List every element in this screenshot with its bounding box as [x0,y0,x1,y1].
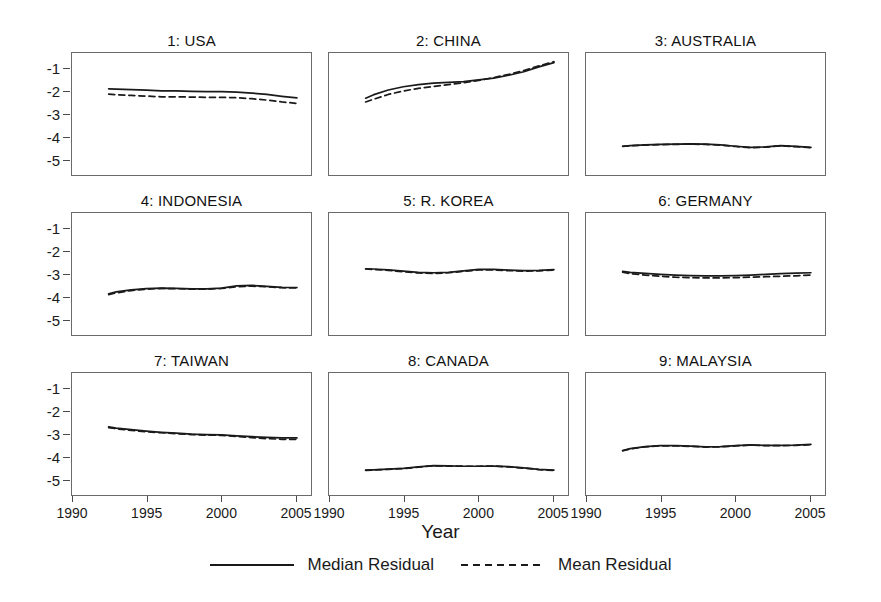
panel-r-korea: 5: R. KOREA [328,188,569,336]
panel-plot-area [328,213,569,336]
x-tick-label: 1995 [388,505,419,521]
x-tick-mark [661,496,662,502]
panel-plot-area [328,373,569,496]
panel-plot-area [328,53,569,176]
x-tick-label: 1995 [645,505,676,521]
y-tick-label: -5 [47,472,60,489]
y-tick-mark [63,434,70,435]
x-tick-mark [296,496,297,502]
panel-title-strip: 4: INDONESIA [71,188,312,213]
panel-plot-area [585,53,826,176]
y-tick-label: -5 [47,152,60,169]
panel-title-strip: 7: TAIWAN [71,348,312,373]
x-tick-mark [221,496,222,502]
median-residual-line [109,427,297,438]
legend-entry-median: Median Residual [209,555,434,575]
panel-usa: 1: USA [71,28,312,176]
x-tick-mark [404,496,405,502]
y-tick-label: -1 [47,219,60,236]
panel-taiwan: 7: TAIWAN [71,348,312,496]
x-tick-label: 2000 [206,505,237,521]
solid-line-icon [209,560,295,570]
y-tick-mark [63,228,70,229]
y-tick-mark [63,480,70,481]
panel-title-label: 8: CANADA [408,352,489,369]
x-axis-ticks-col2 [328,496,569,503]
x-tick-mark [72,496,73,502]
y-tick-mark [63,274,70,275]
legend-entry-mean: Mean Residual [460,555,671,575]
y-tick-mark [63,411,70,412]
panel-china: 2: CHINA [328,28,569,176]
panel-title-label: 5: R. KOREA [403,192,494,209]
panel-germany: 6: GERMANY [585,188,826,336]
x-tick-mark [329,496,330,502]
legend-label-mean: Mean Residual [558,555,671,575]
y-tick-label: -3 [47,266,60,283]
x-tick-mark [147,496,148,502]
y-tick-mark [63,68,70,69]
mean-residual-line [109,94,297,103]
x-tick-label: 1990 [570,505,601,521]
median-residual-line [623,271,811,275]
y-tick-label: -3 [47,106,60,123]
y-tick-mark [63,91,70,92]
panel-title-strip: 8: CANADA [328,348,569,373]
panel-canada: 8: CANADA [328,348,569,496]
y-axis-labels-row2: -1-2-3-4-5 [18,188,60,336]
panel-title-label: 7: TAIWAN [154,352,229,369]
x-tick-label: 1990 [56,505,87,521]
panel-plot-area [71,373,312,496]
y-tick-label: -2 [47,243,60,260]
y-axis-ticks-row2 [63,188,71,336]
y-tick-label: -4 [47,289,60,306]
y-axis-ticks-row3 [63,348,71,496]
panel-title-strip: 1: USA [71,28,312,53]
x-axis-ticks-col1 [71,496,312,503]
x-axis-title: Year [0,521,881,543]
panel-australia: 3: AUSTRALIA [585,28,826,176]
y-tick-mark [63,320,70,321]
x-tick-label: 1995 [131,505,162,521]
panel-plot-area [71,213,312,336]
y-tick-mark [63,297,70,298]
mean-residual-line [109,286,297,294]
x-tick-label: 2005 [794,505,825,521]
panel-title-label: 9: MALAYSIA [659,352,752,369]
y-tick-mark [63,137,70,138]
x-tick-label: 2005 [537,505,568,521]
panel-plot-area [585,213,826,336]
panel-title-label: 2: CHINA [416,32,481,49]
x-tick-mark [586,496,587,502]
y-axis-labels-row1: -1-2-3-4-5 [18,28,60,176]
x-tick-label: 2000 [463,505,494,521]
x-tick-label: 1990 [313,505,344,521]
y-tick-mark [63,457,70,458]
chart-legend: Median Residual Mean Residual [0,555,881,575]
panel-title-strip: 2: CHINA [328,28,569,53]
panel-title-strip: 6: GERMANY [585,188,826,213]
x-tick-mark [810,496,811,502]
panel-malaysia: 9: MALAYSIA [585,348,826,496]
y-axis-labels-row3: -1-2-3-4-5 [18,348,60,496]
panel-title-strip: 5: R. KOREA [328,188,569,213]
x-tick-label: 2000 [720,505,751,521]
panel-title-label: 6: GERMANY [658,192,753,209]
y-tick-mark [63,388,70,389]
x-axis-ticks-col3 [585,496,826,503]
y-tick-label: -1 [47,379,60,396]
y-tick-label: -3 [47,426,60,443]
y-tick-label: -4 [47,449,60,466]
legend-label-median: Median Residual [307,555,434,575]
panel-title-label: 4: INDONESIA [141,192,243,209]
panel-plot-area [71,53,312,176]
x-tick-label: 2005 [280,505,311,521]
y-axis-ticks-row1 [63,28,71,176]
y-tick-mark [63,251,70,252]
y-tick-mark [63,160,70,161]
x-tick-mark [478,496,479,502]
y-tick-label: -5 [47,312,60,329]
panel-title-strip: 3: AUSTRALIA [585,28,826,53]
y-tick-mark [63,114,70,115]
small-multiples-figure: -1-2-3-4-5 -1-2-3-4-5 -1-2-3-4-5 1990199… [0,0,881,602]
